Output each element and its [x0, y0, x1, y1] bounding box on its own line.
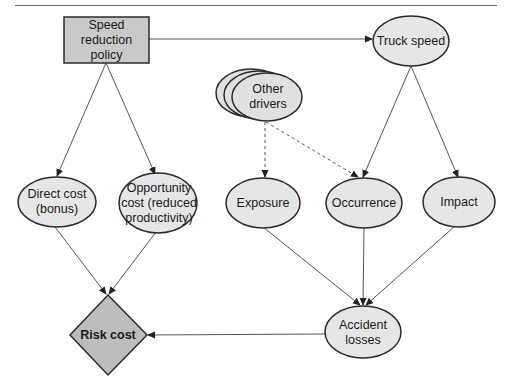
node-direct-cost-label: Direct cost (bonus): [22, 186, 92, 218]
node-impact-label: Impact: [425, 191, 493, 213]
influence-diagram: Speed reduction policy Truck speed Other…: [0, 0, 511, 390]
edge-policy-to-opportunity-cost: [106, 63, 155, 174]
edge-exposure-to-accident-losses: [263, 227, 360, 305]
node-truck-speed-label: Truck speed: [375, 30, 447, 52]
node-risk-cost-label: Risk cost: [72, 324, 144, 346]
edge-truck-speed-to-impact: [411, 66, 458, 177]
edge-impact-to-accident-losses: [366, 226, 455, 305]
edge-other-drivers-to-occurrence: [266, 122, 358, 177]
node-other-drivers-label: Other drivers: [234, 86, 302, 108]
edge-truck-speed-to-occurrence: [363, 66, 411, 177]
node-exposure-label: Exposure: [228, 192, 298, 214]
edge-accident-losses-to-risk-cost: [148, 334, 325, 335]
edge-direct-cost-to-risk-cost: [55, 227, 106, 294]
node-occurrence-label: Occurrence: [327, 192, 401, 214]
edge-policy-to-direct-cost: [57, 63, 106, 176]
edge-occurrence-to-accident-losses: [363, 228, 364, 305]
node-speed-policy-label: Speed reduction policy: [66, 19, 147, 61]
edge-opportunity-cost-to-risk-cost: [109, 232, 156, 294]
node-opportunity-cost-label: Opportunity cost (reduced productivity): [121, 180, 197, 226]
node-accident-losses-label: Accident losses: [335, 317, 391, 349]
